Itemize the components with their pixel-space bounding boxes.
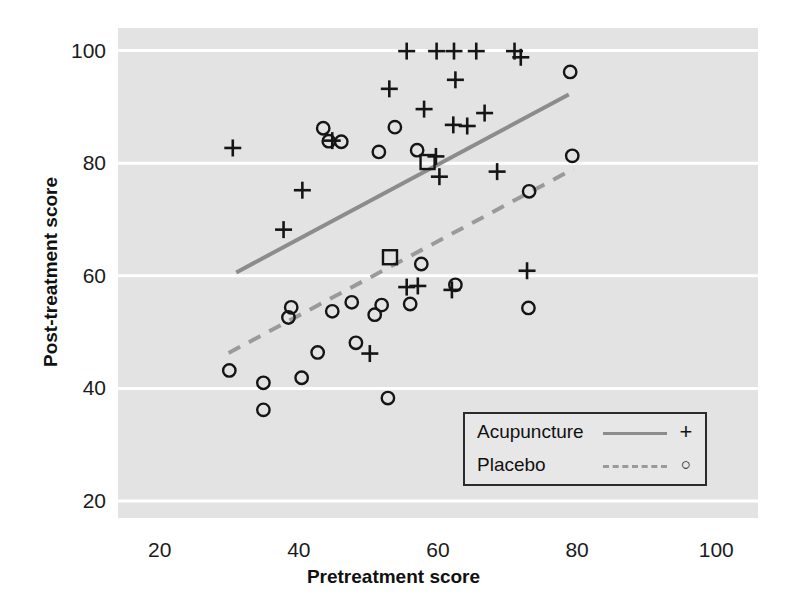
circle-marker-icon: ○ (675, 452, 697, 478)
x-axis-title: Pretreatment score (0, 566, 787, 588)
legend-label-placebo: Placebo (477, 454, 546, 476)
legend-entry-acupuncture: Acupuncture + (465, 417, 705, 450)
legend-dashed-line-swatch (603, 465, 667, 468)
plus-marker-icon: + (675, 419, 697, 445)
y-tick-label-20: 20 (40, 489, 106, 513)
chart-legend: Acupuncture + Placebo ○ (463, 412, 707, 486)
y-tick-label-100: 100 (40, 39, 106, 63)
x-tick-label-40: 40 (287, 538, 310, 562)
x-tick-label-60: 60 (426, 538, 449, 562)
x-tick-label-80: 80 (565, 538, 588, 562)
legend-entry-placebo: Placebo ○ (465, 450, 705, 483)
x-tick-label-20: 20 (148, 538, 171, 562)
legend-solid-line-swatch (603, 432, 667, 435)
legend-label-acupuncture: Acupuncture (477, 421, 584, 443)
x-tick-label-100: 100 (699, 538, 734, 562)
axis-tick-marks (160, 518, 717, 532)
y-axis-title: Post-treatment score (40, 122, 62, 422)
scatter-plot-figure: 20406080100 20406080100 Post-treatment s… (0, 0, 787, 614)
